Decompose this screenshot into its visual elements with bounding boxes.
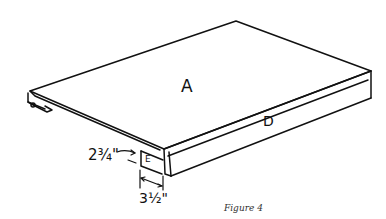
part-label-a: A (181, 78, 193, 95)
top-panel-outline (30, 21, 371, 149)
dimension-height: 2¾" (88, 148, 119, 163)
dimension-width: 3½" (139, 191, 168, 205)
height-tick (128, 160, 136, 163)
part-label-e: E (145, 155, 151, 164)
part-label-d: D (263, 114, 274, 128)
front-rail-bottom (171, 98, 371, 176)
width-arrow-right (158, 184, 162, 187)
figure-caption: Figure 4 (224, 204, 263, 213)
isometric-drawing (0, 0, 386, 219)
